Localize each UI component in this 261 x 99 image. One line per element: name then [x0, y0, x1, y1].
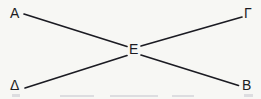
scan-artifact [244, 94, 253, 97]
segment-delta-to-e [25, 56, 127, 89]
vertex-label-a: A [10, 6, 19, 20]
scan-artifact [172, 95, 194, 97]
vertex-label-gamma: Γ [244, 6, 252, 20]
vertex-label-b: B [242, 78, 251, 92]
vertex-label-e: E [129, 42, 138, 56]
segment-e-to-gamma [141, 17, 242, 46]
segment-a-to-e [24, 14, 127, 47]
scan-artifact [12, 94, 20, 97]
scan-artifact [60, 95, 94, 97]
scan-artifact [110, 95, 158, 97]
vertex-label-delta: Δ [10, 78, 19, 92]
segment-e-to-b [141, 55, 239, 86]
geometry-figure: A Γ E Δ B [0, 0, 261, 99]
